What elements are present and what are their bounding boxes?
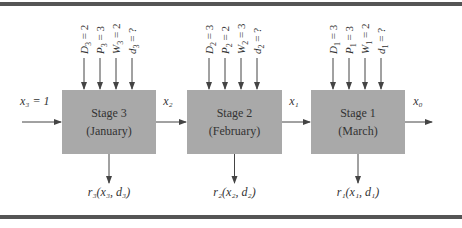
flow-label: x₃ = 1 [19,94,50,108]
return-label: r₃(x₃, d₃) [88,185,131,199]
bottom-rule [0,215,462,219]
input-label: W3 = 2 [110,24,125,54]
input-label: P2 = 2 [219,26,234,55]
dp-stage-diagram: Stage 3(January)D3 = 2P3 = 3W3 = 2d3 = ?… [0,0,462,228]
input-label: W1 = 2 [359,24,374,54]
input-label: P1 = 3 [343,26,358,55]
input-label: D1 = 3 [327,24,342,55]
flow-label: x₁ [288,94,299,108]
stage-box [62,90,156,154]
input-label: P3 = 3 [94,26,109,55]
stage-box [187,90,282,154]
stage-month: (March) [338,124,377,138]
flow-label: x₂ [162,94,173,108]
return-label: r₁(x₁, d₁) [337,185,380,199]
input-label: D2 = 3 [203,24,218,55]
stage-box [311,90,405,154]
input-label: d3 = ? [126,28,141,54]
stage-label: Stage 1 [340,106,376,120]
stage-month: (January) [86,124,131,138]
input-label: d2 = ? [251,28,266,54]
top-rule [0,2,462,6]
stage-label: Stage 2 [217,106,253,120]
return-label: r₂(x₂, d₂) [213,185,256,199]
input-label: D3 = 2 [78,25,93,55]
flow-label: x₀ [412,94,423,108]
input-label: d1 = ? [375,28,390,54]
input-label: W2 = 3 [235,23,250,54]
stage-label: Stage 3 [91,106,127,120]
stage-month: (February) [209,124,260,138]
